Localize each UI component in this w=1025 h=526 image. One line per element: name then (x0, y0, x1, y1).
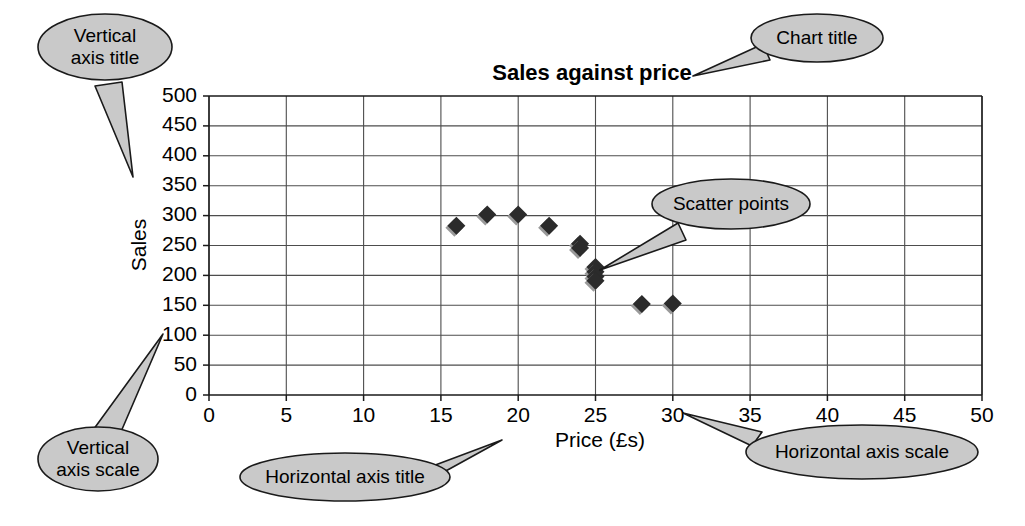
callout-label-line2: axis title (71, 47, 140, 68)
x-tick-label: 35 (738, 403, 761, 426)
y-tick-label: 250 (162, 232, 197, 255)
x-axis-title: Price (£s) (555, 428, 645, 451)
plot-area (203, 96, 982, 401)
callout-label: Scatter points (673, 193, 789, 214)
y-tick-label: 50 (174, 352, 197, 375)
y-tick-label: 500 (162, 83, 197, 106)
callout-label-line1: Vertical (74, 25, 136, 46)
x-tick-label: 40 (816, 403, 839, 426)
callout-label: Chart title (776, 27, 857, 48)
y-tick-label: 150 (162, 292, 197, 315)
callout-label-line2: axis scale (56, 459, 139, 480)
x-tick-label: 0 (203, 403, 215, 426)
x-tick-label: 30 (661, 403, 684, 426)
y-tick-label: 400 (162, 142, 197, 165)
y-tick-label: 300 (162, 202, 197, 225)
x-tick-label: 20 (507, 403, 530, 426)
chart-figure: 050100150200250300350400450500 051015202… (0, 0, 1025, 526)
chart-svg: 050100150200250300350400450500 051015202… (0, 0, 1025, 526)
chart-title: Sales against price (492, 60, 691, 85)
callout-label: Horizontal axis title (265, 466, 424, 487)
x-tick-label: 5 (280, 403, 292, 426)
y-tick-label: 0 (185, 382, 197, 405)
callout-label: Horizontal axis scale (775, 441, 949, 462)
x-tick-label: 25 (584, 403, 607, 426)
y-tick-label: 100 (162, 322, 197, 345)
y-tick-label: 450 (162, 112, 197, 135)
x-tick-label: 10 (352, 403, 375, 426)
callout-label-line1: Vertical (67, 437, 129, 458)
y-axis-title: Sales (127, 219, 150, 272)
x-tick-label: 15 (429, 403, 452, 426)
x-tick-label: 50 (970, 403, 993, 426)
y-tick-label: 200 (162, 262, 197, 285)
y-tick-label: 350 (162, 172, 197, 195)
x-tick-label: 45 (893, 403, 916, 426)
